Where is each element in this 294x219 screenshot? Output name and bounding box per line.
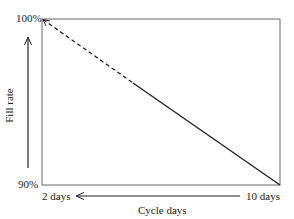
x-axis-title: Cycle days [138,205,187,216]
y-tick-100: 100% [16,13,42,24]
solid-trend-line [133,83,280,185]
y-tick-90: 90% [18,179,38,190]
chart-canvas [0,0,294,219]
y-axis-title: Fill rate [4,88,15,123]
dashed-trend-line [43,20,133,84]
x-tick-2-days: 2 days [42,191,70,202]
x-tick-10-days: 10 days [246,191,280,202]
